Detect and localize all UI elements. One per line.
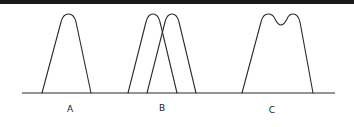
peak-a — [42, 14, 91, 93]
peaks-diagram — [0, 0, 354, 127]
label-b: B — [159, 103, 165, 113]
label-c: C — [269, 105, 275, 115]
peak-b-right — [147, 14, 196, 93]
peak-c — [242, 14, 313, 93]
label-a: A — [67, 104, 73, 114]
peak-b-left — [128, 14, 177, 93]
